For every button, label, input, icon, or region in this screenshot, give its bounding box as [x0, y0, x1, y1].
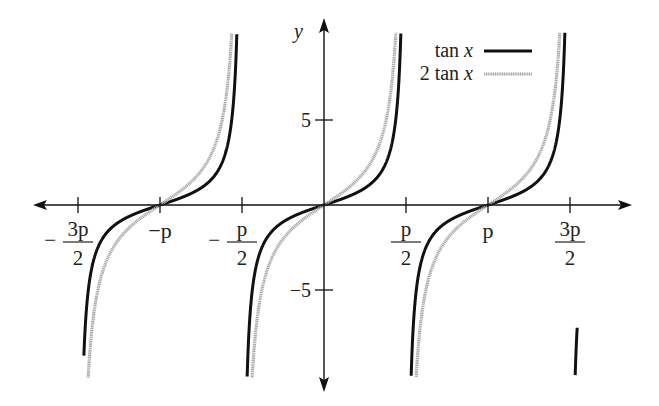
x-tick-fraction-label: 3p2	[555, 217, 585, 270]
x-tick-label: −p	[148, 218, 171, 243]
y-tick-label: −5	[290, 279, 311, 301]
y-tick-label: 5	[301, 109, 311, 131]
x-tick-fraction-label: 3p2−	[44, 217, 93, 270]
fraction-denominator: 2	[73, 246, 84, 270]
x-tick-fraction-label: p2−	[208, 217, 257, 270]
fraction-numerator: 3p	[68, 217, 89, 241]
fraction-numerator: p	[401, 217, 412, 241]
fraction-denominator: 2	[237, 246, 248, 270]
x-tick-label: p	[483, 218, 494, 243]
legend: tan x2 tan x	[420, 39, 532, 84]
axes: y	[33, 18, 632, 392]
fraction-denominator: 2	[401, 246, 412, 270]
fraction-denominator: 2	[565, 246, 576, 270]
legend-label: 2 tan x	[420, 62, 473, 84]
fraction-numerator: 3p	[559, 217, 580, 241]
x-tick-fraction-label: p2	[391, 217, 421, 270]
fraction-numerator: p	[237, 217, 248, 241]
tangent-chart: y 3p2−−pp2−p2p3p25−5 tan x2 tan x	[0, 0, 659, 406]
legend-label: tan x	[435, 39, 473, 61]
fraction-sign: −	[208, 228, 220, 252]
y-axis-label: y	[292, 20, 303, 43]
fraction-sign: −	[44, 228, 56, 252]
